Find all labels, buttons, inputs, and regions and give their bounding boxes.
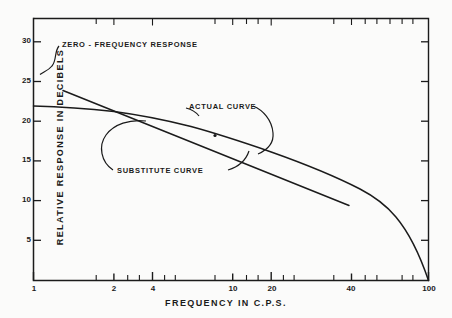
top-axis-ticks bbox=[96, 19, 413, 26]
curve-ink-marks bbox=[213, 134, 216, 137]
y-tick-label-30: 30 bbox=[13, 36, 31, 45]
x-axis-title: FREQUENCY IN C.P.S. bbox=[0, 298, 452, 308]
y-axis-title: RELATIVE RESPONSE IN DECIBELS bbox=[55, 49, 65, 245]
series-actual-curve bbox=[34, 106, 429, 281]
figure-canvas: 5 10 15 20 25 30 1 2 4 10 20 40 100 FREQ… bbox=[0, 0, 452, 318]
annotation-zero-frequency-response: ZERO - FREQUENCY RESPONSE bbox=[62, 40, 198, 49]
x-axis-minor-ticks bbox=[96, 275, 413, 281]
x-tick-label-4: 4 bbox=[147, 284, 159, 293]
plot-frame bbox=[34, 19, 429, 281]
right-axis-ticks bbox=[421, 42, 429, 241]
y-axis-title-wrapper: RELATIVE RESPONSE IN DECIBELS bbox=[49, 37, 67, 257]
y-tick-label-20: 20 bbox=[13, 116, 31, 125]
x-tick-label-20: 20 bbox=[264, 284, 280, 293]
leader-substitute-curve bbox=[102, 121, 146, 170]
y-tick-label-15: 15 bbox=[13, 155, 31, 164]
annotation-substitute-curve: SUBSTITUTE CURVE bbox=[117, 166, 204, 175]
x-tick-label-10: 10 bbox=[225, 284, 241, 293]
x-axis-major-ticks bbox=[34, 272, 429, 281]
x-tick-label-2: 2 bbox=[108, 284, 120, 293]
x-tick-label-40: 40 bbox=[343, 284, 359, 293]
y-tick-label-25: 25 bbox=[13, 76, 31, 85]
y-tick-label-10: 10 bbox=[13, 195, 31, 204]
x-tick-label-100: 100 bbox=[419, 284, 439, 293]
x-tick-label-1: 1 bbox=[28, 284, 40, 293]
y-tick-label-5: 5 bbox=[17, 235, 31, 244]
y-axis-ticks bbox=[34, 42, 42, 241]
annotation-actual-curve: ACTUAL CURVE bbox=[189, 102, 256, 111]
